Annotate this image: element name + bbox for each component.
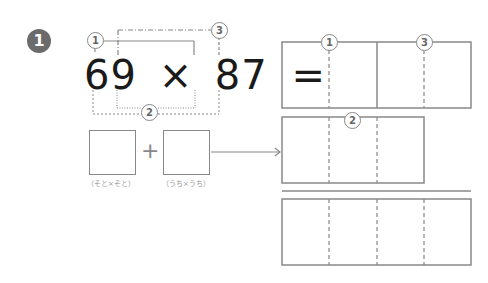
plus-sign: +	[141, 138, 159, 163]
outer-product-box[interactable]	[89, 130, 136, 175]
marker-3: 3	[211, 22, 228, 39]
middle-answer-grid[interactable]	[282, 117, 424, 183]
inner-product-box[interactable]	[163, 130, 210, 175]
outer-product-label: （そと×そと）	[87, 178, 135, 188]
inner-product-label: （うち×うち）	[162, 178, 210, 188]
top-answer-grid[interactable]	[282, 42, 471, 108]
marker-2: 2	[141, 104, 158, 121]
bottom-answer-grid[interactable]	[282, 199, 471, 265]
times-sign: ×	[159, 52, 194, 98]
multiplicand: 69	[84, 52, 137, 98]
marker-1: 1	[87, 32, 104, 49]
multiplier: 87	[215, 52, 268, 98]
